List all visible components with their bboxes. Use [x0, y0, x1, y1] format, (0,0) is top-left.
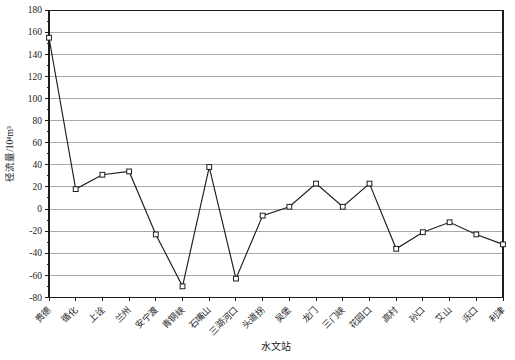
- y-axis-tick-label: 180: [28, 5, 43, 15]
- x-axis-tick-label: 孙口: [406, 304, 427, 325]
- data-point-marker: [47, 35, 52, 40]
- data-point-marker: [73, 187, 78, 192]
- y-axis-tick-label: 60: [33, 138, 43, 148]
- x-axis-tick-label: 吴堡: [273, 304, 294, 325]
- y-axis-tick-label: 160: [28, 27, 43, 37]
- data-point-marker: [501, 242, 506, 247]
- y-axis-tick-label: 20: [33, 182, 43, 192]
- data-point-marker: [180, 284, 185, 289]
- x-axis-tick-label: 贵德: [32, 304, 53, 325]
- x-axis-tick-label: 循化: [59, 304, 80, 325]
- data-point-marker: [287, 204, 292, 209]
- x-axis-tick-label: 花园口: [347, 304, 374, 331]
- x-axis-tick-label: 三门峡: [320, 304, 347, 331]
- data-point-marker: [153, 232, 158, 237]
- x-axis-tick-label: 利津: [486, 304, 507, 325]
- x-axis-tick-label: 安宁渡: [133, 304, 160, 331]
- data-point-marker: [234, 276, 239, 281]
- y-axis-tick-label: -60: [29, 271, 42, 281]
- data-point-marker: [447, 220, 452, 225]
- y-axis-tick-label: 40: [33, 160, 43, 170]
- x-axis-tick-label: 头道拐: [240, 304, 267, 331]
- x-axis-tick-label: 龙门: [299, 304, 320, 325]
- x-axis-tick-label: 高村: [380, 304, 401, 325]
- x-axis-tick-label: 兰州: [113, 304, 134, 325]
- plot-border: [49, 10, 503, 297]
- y-axis-tick-label: -40: [29, 248, 42, 258]
- data-point-marker: [474, 232, 479, 237]
- x-axis-tick-label: 艾山: [434, 305, 454, 325]
- y-axis-tick-label: 140: [28, 50, 43, 60]
- plot-canvas: -80-60-40-20020406080100120140160180贵德循化…: [0, 0, 515, 360]
- y-axis-tick-label: 100: [28, 94, 43, 104]
- y-axis-title: 径流量/10⁸m³: [2, 54, 16, 254]
- data-point-marker: [420, 230, 425, 235]
- x-axis-tick-label: 泺口: [460, 304, 481, 325]
- runoff-line-chart: -80-60-40-20020406080100120140160180贵德循化…: [0, 0, 515, 360]
- data-point-marker: [314, 181, 319, 186]
- y-axis-tick-label: -80: [29, 293, 42, 303]
- y-axis-tick-label: 120: [28, 72, 43, 82]
- data-line: [49, 38, 503, 287]
- y-axis-tick-label: -20: [29, 226, 42, 236]
- x-axis-tick-label: 三湖河口: [207, 304, 240, 337]
- data-point-marker: [127, 169, 132, 174]
- data-point-marker: [207, 165, 212, 170]
- x-axis-title: 水文站: [49, 338, 503, 353]
- data-point-marker: [100, 172, 105, 177]
- y-axis-tick-label: 80: [33, 116, 43, 126]
- data-point-marker: [260, 213, 265, 218]
- data-point-marker: [367, 181, 372, 186]
- y-axis-tick-label: 0: [37, 204, 42, 214]
- data-point-marker: [340, 204, 345, 209]
- x-axis-tick-label: 青铜峡: [160, 304, 187, 331]
- x-axis-tick-label: 上诠: [86, 304, 107, 325]
- data-point-marker: [394, 246, 399, 251]
